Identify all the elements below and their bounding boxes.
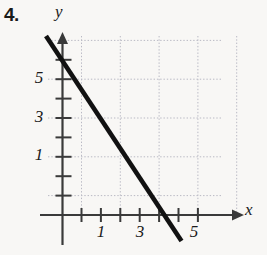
x-tick-label-5: 5 [186,222,202,242]
x-tick-label-3: 3 [132,222,148,242]
y-tick-label-1: 1 [31,145,47,165]
x-axis-label: x [245,200,253,220]
plotted-line [46,36,182,241]
x-tick-label-1: 1 [93,222,109,242]
y-tick-label-3: 3 [31,107,47,127]
x-axis [40,210,244,221]
coordinate-plot [0,0,267,255]
y-tick-label-5: 5 [31,68,47,88]
exercise-figure: 4. [0,0,267,255]
y-axis-label: y [55,2,63,22]
